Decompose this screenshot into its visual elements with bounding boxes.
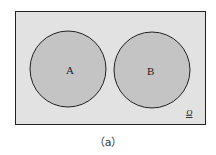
set-a-label: A [66, 64, 74, 76]
venn-diagram: A B Ω [0, 0, 216, 155]
set-b-label: B [147, 65, 154, 77]
figure-caption: （a） [0, 133, 216, 149]
universe-label: Ω [186, 108, 193, 118]
